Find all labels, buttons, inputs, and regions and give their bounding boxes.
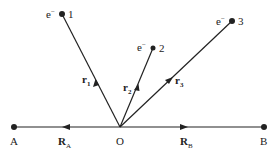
electron-2-label: 2 (159, 42, 165, 54)
origin-o-label: O (116, 135, 124, 147)
point-a-dot (11, 124, 17, 130)
vector-r1-line (62, 14, 120, 127)
arrowhead-ra-icon (62, 124, 70, 130)
electron-3-label: 3 (238, 15, 244, 27)
electron-position-diagram: e− 1 e− 2 e− 3 r1 r2 r3 A RA O RB B (0, 0, 279, 151)
electron-1-label: 1 (68, 8, 74, 20)
electron-3-charge: e− (216, 15, 225, 27)
electron-2-dot (151, 46, 156, 51)
arrowhead-rb-icon (180, 124, 188, 130)
arrowhead-r1-icon (93, 79, 99, 87)
vector-rb-label: RB (180, 135, 193, 150)
electron-1-charge: e− (46, 8, 55, 20)
arrowhead-r2-icon (134, 84, 140, 91)
vector-r1-label: r1 (82, 73, 91, 88)
point-b-dot (261, 124, 267, 130)
electron-1-dot (59, 11, 65, 17)
vector-r3-label: r3 (175, 74, 184, 89)
point-a-label: A (10, 135, 18, 147)
electron-3-dot (229, 18, 235, 24)
vector-r2-label: r2 (123, 81, 132, 96)
vector-ra-label: RA (58, 135, 71, 150)
electron-2-charge: e− (137, 41, 146, 53)
point-b-label: B (260, 135, 267, 147)
